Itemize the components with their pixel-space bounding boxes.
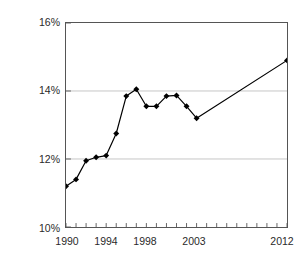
gridlines [66,91,287,159]
y-axis-tick-marks [66,23,71,227]
x-axis-tick-marks [66,223,287,227]
series-line [66,60,287,186]
plot-svg [66,23,287,227]
x-tick-label-1998: 1998 [133,236,156,247]
plot-area [65,22,288,228]
x-tick-label-2012: 2012 [270,236,293,247]
y-tick-label-14: 14% [26,85,60,96]
x-tick-label-1990: 1990 [55,236,78,247]
y-tick-label-12: 12% [26,154,60,165]
line-chart-figure: (CA Jobs as % U.S.) 16% 14% 12% 10% 1990… [0,0,307,263]
x-axis-tick-labels: 1990 1994 1998 2003 2012 [0,236,307,256]
y-axis-tick-labels: 16% 14% 12% 10% [26,0,60,263]
x-tick-label-1994: 1994 [94,236,117,247]
series-markers [66,57,287,189]
y-tick-label-16: 16% [26,17,60,28]
x-tick-label-2003: 2003 [182,236,205,247]
y-tick-label-10: 10% [26,223,60,234]
y-axis-title: (CA Jobs as % U.S.) [2,0,28,52]
